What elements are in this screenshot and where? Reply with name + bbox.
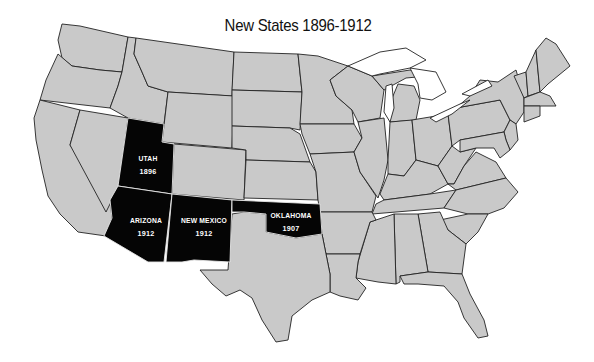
state-north-dakota	[232, 52, 302, 92]
state-colorado	[172, 144, 246, 200]
label-utah-year: 1896	[128, 165, 168, 178]
state-iowa	[300, 124, 362, 154]
label-oklahoma-name: OKLAHOMA	[270, 211, 311, 220]
state-kansas	[244, 160, 318, 200]
state-connecticut	[524, 106, 540, 122]
label-arizona-year: 1912	[123, 227, 170, 240]
us-map	[0, 0, 594, 362]
label-oklahoma: OKLAHOMA 1907	[265, 209, 317, 235]
label-utah: UTAH 1896	[128, 152, 168, 178]
label-arizona: ARIZONA 1912	[123, 214, 170, 240]
label-new-mexico-year: 1912	[177, 227, 231, 240]
label-utah-name: UTAH	[139, 154, 158, 163]
label-arizona-name: ARIZONA	[130, 216, 162, 225]
label-new-mexico: NEW MEXICO 1912	[177, 214, 231, 240]
label-new-mexico-name: NEW MEXICO	[181, 216, 227, 225]
state-wyoming	[162, 92, 234, 148]
state-south-dakota	[232, 90, 302, 130]
state-florida	[400, 272, 488, 338]
state-maine	[536, 38, 570, 92]
label-oklahoma-year: 1907	[265, 222, 317, 235]
